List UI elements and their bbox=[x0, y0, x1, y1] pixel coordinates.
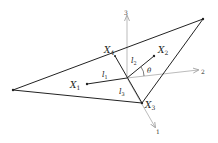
axis-3-label: 3 bbox=[124, 9, 128, 16]
x2-label: X2 bbox=[157, 45, 168, 56]
theta-label: θ bbox=[147, 67, 152, 75]
l1-label: l1 bbox=[102, 70, 108, 80]
theta-arc bbox=[141, 67, 144, 76]
vertex-left bbox=[12, 89, 14, 91]
axis-2-label: 2 bbox=[201, 68, 205, 75]
triangle-element-diagram: 3 2 1 X4 X2 X1 X3 l1 l2 l3 θ bbox=[0, 0, 218, 143]
point-x1 bbox=[86, 83, 88, 85]
vertex-top-right bbox=[202, 18, 204, 20]
x3-label: X3 bbox=[144, 100, 155, 111]
x1-label: X1 bbox=[69, 80, 80, 91]
point-x2 bbox=[153, 55, 155, 57]
point-x4 bbox=[114, 55, 116, 57]
axis-1-label: 1 bbox=[156, 128, 160, 135]
l3-label: l3 bbox=[119, 87, 125, 97]
x4-label: X4 bbox=[103, 45, 114, 56]
l2-label: l2 bbox=[131, 56, 137, 66]
triangle-outline bbox=[13, 19, 203, 103]
point-x3 bbox=[141, 102, 143, 104]
